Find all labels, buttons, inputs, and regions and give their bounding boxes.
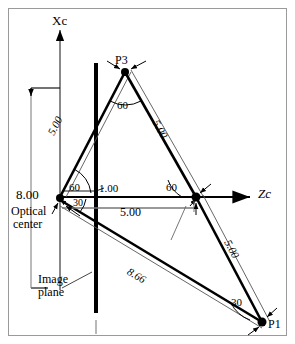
axis-label-zc: Zc — [258, 187, 271, 201]
axis-label-xc: Xc — [52, 14, 67, 28]
origin-label-line1: Optical — [11, 205, 46, 218]
angle-label-p1: 30 — [231, 297, 242, 309]
image-plane-label-line1: Image — [38, 273, 68, 286]
angle-label-origin-30: 30 — [73, 198, 83, 209]
point-p1 — [258, 318, 267, 327]
point-p3 — [121, 68, 129, 76]
angle-label-p3: 60 — [117, 100, 128, 112]
origin-label-line2: center — [13, 218, 42, 231]
dimension-label-8-00: 8.00 — [16, 188, 39, 202]
angle-label-origin-60: 60 — [69, 182, 80, 194]
angle-label-p2: 60 — [166, 182, 177, 194]
point-p2 — [192, 193, 201, 202]
leader-8-66 — [171, 206, 186, 240]
image-plane-label-line2: plane — [38, 286, 64, 299]
point-label-p3: P3 — [115, 54, 128, 67]
point-label-p1: P1 — [268, 318, 281, 331]
dimension-label-1-00: 1.00 — [99, 183, 118, 195]
point-optical-center — [56, 194, 64, 202]
dimension-label-5-00-baseline: 5.00 — [120, 206, 141, 219]
figure-canvas: Xc Zc P3 P1 8.00 Optical center Image pl… — [0, 0, 295, 344]
